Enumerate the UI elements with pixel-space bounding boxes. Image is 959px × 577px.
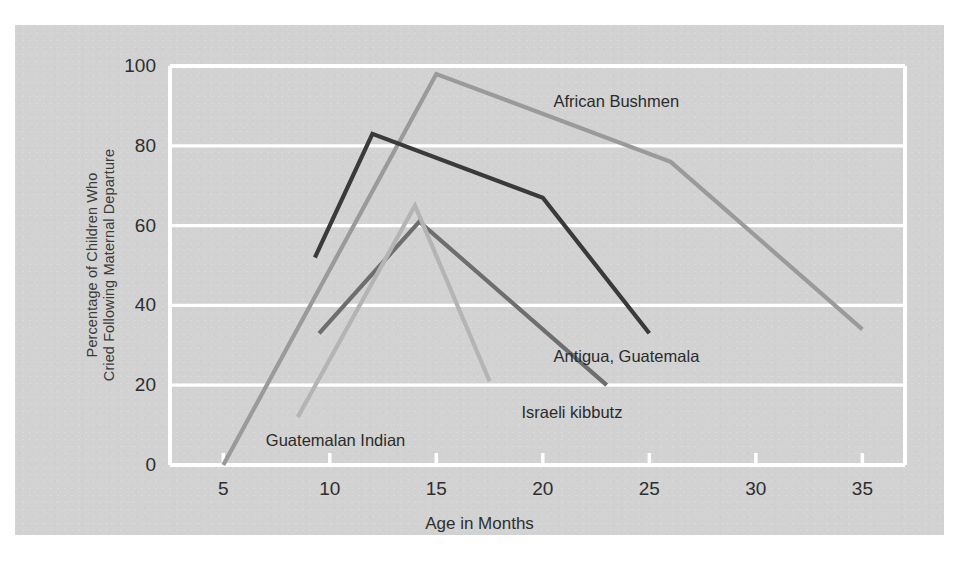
series-label-african-bushmen: African Bushmen [553,92,679,111]
chart-plot-area [0,0,959,577]
chart-figure: Percentage of Children Who Cried Followi… [0,0,959,577]
series-label-israeli-kibbutz: Israeli kibbutz [522,403,623,422]
series-label-guatemalan-indian: Guatemalan Indian [266,431,405,450]
series-label-antigua-guatemala: Antigua, Guatemala [553,347,699,366]
series-line-antigua-guatemala [315,134,649,333]
axis-ticks [223,453,862,463]
